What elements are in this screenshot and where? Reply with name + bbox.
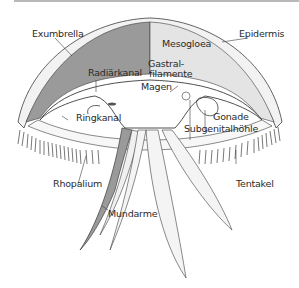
jellyfish-diagram bbox=[0, 0, 299, 288]
label-epidermis: Epidermis bbox=[239, 29, 284, 39]
ringkanal-dot bbox=[108, 103, 116, 106]
label-subgenitalhoehle: Subgenitalhöhle bbox=[184, 124, 258, 134]
label-radiarkanal: Radiärkanal bbox=[88, 68, 142, 78]
label-filamente: filamente bbox=[149, 69, 192, 79]
label-tentakel: Tentakel bbox=[236, 179, 274, 189]
label-rhopalium: Rhopalium bbox=[53, 179, 102, 189]
label-mundarme: Mundarme bbox=[108, 209, 157, 219]
label-mesogloea: Mesogloea bbox=[162, 39, 211, 49]
label-ringkanal: Ringkanal bbox=[76, 113, 121, 123]
label-gonade: Gonade bbox=[213, 112, 249, 122]
label-exumbrella: Exumbrella bbox=[32, 29, 84, 39]
label-magen: Magen bbox=[141, 82, 172, 92]
